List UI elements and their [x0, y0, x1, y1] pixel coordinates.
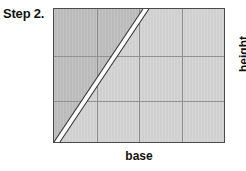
grid-vertical-line-3 [182, 9, 183, 142]
grid-vertical-line-2 [139, 9, 140, 142]
base-axis-label: base [53, 149, 225, 163]
grid-vertical-line-1 [97, 9, 98, 142]
figure-page: Step 2. base height [0, 0, 246, 171]
step-label: Step 2. [3, 6, 44, 21]
grid-horizontal-line-1 [54, 56, 224, 57]
geometry-figure [53, 8, 225, 143]
rectangle-shape [53, 8, 225, 143]
grid-horizontal-line-2 [54, 101, 224, 102]
height-axis-label: height [237, 26, 246, 82]
